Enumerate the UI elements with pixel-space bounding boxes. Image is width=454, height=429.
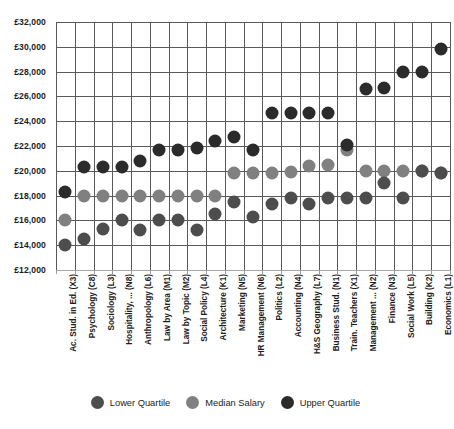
data-point-lower: [359, 192, 372, 205]
data-point-lower: [134, 224, 147, 237]
legend-label: Median Salary: [205, 398, 264, 408]
legend-item[interactable]: Upper Quartile: [281, 396, 360, 409]
x-axis-category-label: Building (K2): [425, 274, 435, 370]
data-point-upper: [59, 185, 72, 198]
data-point-upper: [284, 106, 297, 119]
x-axis-category-label: Sociology (L3): [107, 274, 117, 370]
x-axis-category-label: Marketing (N5): [238, 274, 248, 370]
y-axis-tick-label: £30,000: [14, 42, 46, 51]
gridline-y: [56, 245, 450, 246]
legend-item[interactable]: Median Salary: [186, 396, 264, 409]
data-point-lower: [209, 208, 222, 221]
data-point-upper: [322, 106, 335, 119]
y-axis-tick-label: £20,000: [14, 166, 46, 175]
data-point-lower: [340, 192, 353, 205]
gridline-x: [281, 22, 282, 270]
data-point-upper: [303, 106, 316, 119]
data-point-upper: [134, 154, 147, 167]
gridline-x: [319, 22, 320, 270]
x-axis-category-label: Finance (N3): [388, 274, 398, 370]
data-point-lower: [303, 198, 316, 211]
x-axis-category-label: Ac. Stud. in Ed. (X3): [69, 274, 79, 370]
x-axis-category-label: Anthropology (L6): [144, 274, 154, 370]
data-point-upper: [115, 161, 128, 174]
data-point-median: [171, 189, 184, 202]
gridline-x: [300, 22, 301, 270]
data-point-lower: [322, 192, 335, 205]
x-axis-category-label: Social Policy (L4): [200, 274, 210, 370]
x-axis-category-label: Politics (L2): [275, 274, 285, 370]
data-point-median: [115, 189, 128, 202]
gridline-x: [337, 22, 338, 270]
data-point-upper: [153, 143, 166, 156]
data-point-median: [284, 166, 297, 179]
data-point-median: [59, 214, 72, 227]
y-axis-tick-label: £28,000: [14, 67, 46, 76]
data-point-median: [153, 189, 166, 202]
data-point-upper: [378, 81, 391, 94]
data-point-upper: [209, 135, 222, 148]
legend-label: Lower Quartile: [110, 398, 170, 408]
gridline-y: [56, 72, 450, 73]
data-point-lower: [59, 239, 72, 252]
gridline-y: [56, 47, 450, 48]
x-axis-category-label: Architecture (K1): [219, 274, 229, 370]
gridline-x: [169, 22, 170, 270]
data-point-upper: [359, 82, 372, 95]
data-point-lower: [415, 164, 428, 177]
data-point-median: [359, 164, 372, 177]
y-axis-tick-labels: £32,000£30,000£28,000£26,000£24,000£22,0…: [0, 0, 50, 270]
data-point-upper: [434, 43, 447, 56]
y-axis-tick-label: £12,000: [14, 266, 46, 275]
x-axis-category-label: Economics (L1): [444, 274, 454, 370]
data-point-lower: [190, 224, 203, 237]
gridline-x: [375, 22, 376, 270]
data-point-lower: [397, 192, 410, 205]
y-axis-tick-label: £22,000: [14, 142, 46, 151]
data-point-median: [78, 189, 91, 202]
data-point-upper: [96, 161, 109, 174]
data-point-median: [228, 167, 241, 180]
x-axis-category-labels: Ac. Stud. in Ed. (X3)Psychology (C8)Soci…: [56, 274, 450, 370]
data-point-upper: [247, 143, 260, 156]
y-axis-tick-label: £18,000: [14, 191, 46, 200]
data-point-median: [265, 167, 278, 180]
data-point-lower: [265, 198, 278, 211]
gridline-x: [225, 22, 226, 270]
data-point-median: [322, 158, 335, 171]
y-axis-tick-label: £32,000: [14, 18, 46, 27]
x-axis-category-label: Train. Teachers (X1): [350, 274, 360, 370]
legend-item[interactable]: Lower Quartile: [91, 396, 170, 409]
data-point-upper: [397, 65, 410, 78]
data-point-upper: [171, 143, 184, 156]
circle-marker-icon: [281, 396, 294, 409]
gridline-x: [112, 22, 113, 270]
data-point-median: [190, 189, 203, 202]
data-point-upper: [340, 138, 353, 151]
gridline-x: [431, 22, 432, 270]
x-axis-category-label: Social Work (L5): [407, 274, 417, 370]
data-point-upper: [190, 142, 203, 155]
gridline-x: [150, 22, 151, 270]
data-point-median: [209, 189, 222, 202]
data-point-upper: [415, 65, 428, 78]
circle-marker-icon: [91, 396, 104, 409]
gridline-y: [56, 96, 450, 97]
gridline-x: [394, 22, 395, 270]
x-axis-category-label: Accounting (N4): [294, 274, 304, 370]
data-point-lower: [171, 214, 184, 227]
gridline-x: [450, 22, 451, 270]
x-axis-category-label: Law by Area (M1): [163, 274, 173, 370]
x-axis-line: [56, 270, 450, 271]
gridline-x: [206, 22, 207, 270]
plot-area: [56, 22, 450, 270]
gridline-x: [412, 22, 413, 270]
x-axis-category-label: Management ... (N2): [369, 274, 379, 370]
x-axis-category-label: Business Stud. (N1): [332, 274, 342, 370]
data-point-lower: [284, 192, 297, 205]
data-point-median: [247, 167, 260, 180]
gridline-y: [56, 22, 450, 23]
data-point-lower: [378, 177, 391, 190]
y-axis-tick-label: £24,000: [14, 117, 46, 126]
